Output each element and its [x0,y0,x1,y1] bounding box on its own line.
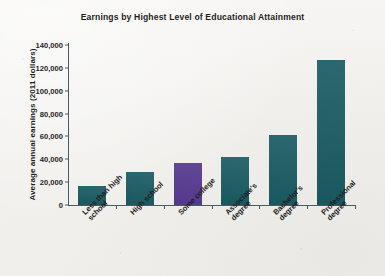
scan-speck [120,252,121,254]
scan-speck [44,190,46,191]
x-tick-mark [355,205,356,209]
y-tick-label: 40,000 [3,155,68,164]
y-tick-mark [65,90,68,91]
scan-speck [352,30,354,31]
chart-title: Earnings by Highest Level of Educational… [0,12,385,22]
y-tick-mark [65,67,68,68]
x-tick-mark [307,205,308,209]
x-tick-mark [164,205,165,209]
chart-figure: Earnings by Highest Level of Educational… [0,0,385,276]
scan-speck [22,58,24,60]
y-tick-label: 0 [3,201,68,210]
y-tick-label: 20,000 [3,178,68,187]
y-tick-mark [65,159,68,160]
y-tick-mark [65,205,68,206]
x-tick-mark [116,205,117,209]
scan-speck [300,248,302,250]
y-tick-mark [65,45,68,46]
y-tick-label: 60,000 [3,132,68,141]
y-tick-mark [65,113,68,114]
y-tick-label: 140,000 [3,41,68,50]
y-tick-label: 120,000 [3,63,68,72]
x-tick-mark [212,205,213,209]
y-tick-mark [65,136,68,137]
y-tick-mark [65,182,68,183]
x-tick-mark [259,205,260,209]
y-tick-label: 100,000 [3,86,68,95]
y-tick-label: 80,000 [3,109,68,118]
